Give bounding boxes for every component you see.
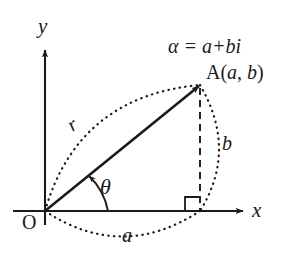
point-a-close: ): [257, 61, 264, 83]
complex-number-equation: α = a+bi: [168, 36, 241, 56]
imaginary-component-arc: [200, 85, 219, 211]
point-a-real: a: [227, 61, 237, 83]
point-a-separator: ,: [237, 61, 247, 83]
origin-label: O: [22, 212, 36, 232]
radius-vector: [45, 86, 199, 211]
point-a-imag: b: [247, 61, 257, 83]
point-a-name: A(: [206, 61, 227, 83]
real-component-label: a: [122, 225, 132, 245]
y-axis-label: y: [38, 16, 47, 37]
right-angle-marker: [185, 197, 199, 211]
imaginary-component-label: b: [222, 133, 232, 153]
argument-label: θ: [100, 176, 111, 198]
x-axis-label: x: [252, 200, 261, 221]
point-a-label: A(a, b): [206, 62, 264, 82]
argand-diagram-figure: y x O α = a+bi A(a, b) θ r b a: [0, 0, 298, 254]
